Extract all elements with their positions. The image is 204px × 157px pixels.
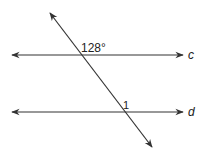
line-label-c: c: [188, 48, 194, 62]
parallel-lines-diagram: 128° 1 c d: [0, 0, 204, 157]
line-label-d: d: [188, 105, 195, 119]
angle-label-128: 128°: [81, 41, 106, 55]
angle-label-1: 1: [123, 99, 129, 111]
transversal-line: [50, 13, 152, 147]
